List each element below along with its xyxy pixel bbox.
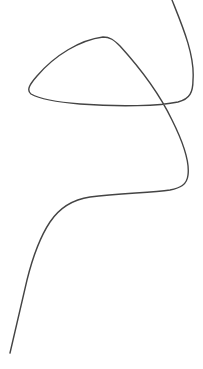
drawing-canvas (0, 0, 203, 369)
canvas-background (0, 0, 203, 369)
